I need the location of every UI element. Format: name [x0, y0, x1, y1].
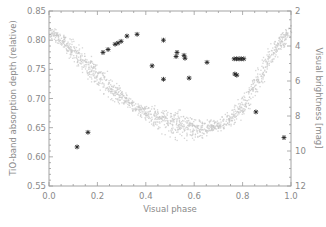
- tick-labels: 0.00.20.40.60.81.00.550.600.650.700.750.…: [27, 6, 306, 201]
- x-tick-label: 1.0: [284, 191, 298, 201]
- asterisk-marker: [119, 39, 124, 44]
- axis-ticks: [49, 11, 291, 186]
- x-axis-title: Visual phase: [143, 204, 197, 214]
- x-tick-label: 0.6: [187, 191, 201, 201]
- x-tick-label: 0.2: [91, 191, 105, 201]
- y-tick-label-right: 12: [295, 181, 306, 191]
- y-tick-label-right: 2: [295, 6, 300, 16]
- asterisk-marker: [101, 50, 106, 55]
- asterisk-marker: [254, 110, 259, 115]
- y-tick-label-right: 10: [295, 146, 306, 156]
- x-tick-label: 0.8: [236, 191, 250, 201]
- asterisk-marker: [175, 50, 180, 55]
- x-tick-label: 0.0: [42, 191, 56, 201]
- chart: 0.00.20.40.60.81.00.550.600.650.700.750.…: [0, 0, 326, 227]
- plot-frame: [49, 11, 291, 186]
- y-tick-label-left: 0.65: [27, 123, 46, 133]
- y-axis-title-left: TiO-band absorption depth (relative): [8, 20, 18, 177]
- y-tick-label-left: 0.85: [27, 6, 46, 16]
- y-tick-label-right: 4: [295, 41, 300, 51]
- x-tick-label: 0.4: [139, 191, 153, 201]
- asterisk-marker: [75, 145, 80, 150]
- asterisk-marker: [183, 56, 188, 61]
- asterisk-marker: [86, 130, 91, 135]
- y-tick-label-right: 8: [295, 111, 300, 121]
- asterisk-marker: [150, 63, 155, 68]
- asterisk-marker: [282, 135, 287, 140]
- y-tick-label-left: 0.70: [27, 94, 46, 104]
- asterisk-marker: [106, 47, 111, 52]
- asterisk-marker: [187, 76, 192, 81]
- asterisk-marker: [241, 56, 246, 61]
- asterisk-marker: [161, 77, 166, 82]
- y-tick-label-left: 0.55: [27, 181, 46, 191]
- light-curve-points: [49, 25, 292, 141]
- asterisk-marker: [174, 54, 179, 59]
- tio-absorption-points: [75, 32, 287, 149]
- asterisk-marker: [161, 38, 166, 43]
- asterisk-marker: [234, 73, 239, 78]
- asterisk-marker: [135, 32, 140, 37]
- y-tick-label-right: 6: [295, 76, 300, 86]
- y-tick-label-left: 0.60: [27, 152, 46, 162]
- asterisk-marker: [205, 60, 210, 65]
- asterisk-marker: [125, 34, 130, 39]
- y-tick-label-left: 0.75: [27, 64, 46, 74]
- y-axis-title-right: Visual brightness [mag]: [314, 47, 324, 148]
- y-tick-label-left: 0.80: [27, 35, 46, 45]
